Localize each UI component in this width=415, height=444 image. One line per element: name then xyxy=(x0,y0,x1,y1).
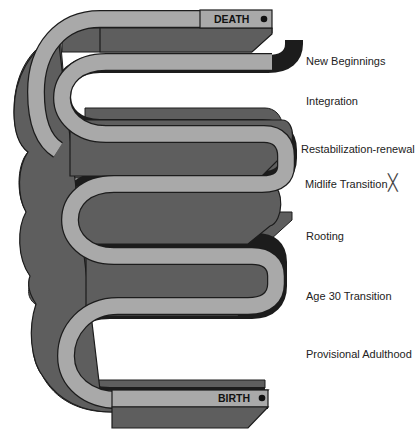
birth-band-shadow xyxy=(112,407,268,428)
stage-label-midlife-transition: Midlife Transition xyxy=(305,178,388,190)
top-strip-shadow xyxy=(100,28,272,52)
stage-label-integration: Integration xyxy=(306,95,358,107)
stage-label-provisional-adulthood: Provisional Adulthood xyxy=(306,348,412,360)
stage-label-restabilization-renewal: Restabilization-renewal xyxy=(301,143,415,155)
stage-label-new-beginnings: New Beginnings xyxy=(306,55,386,67)
stage-label-age-30-transition: Age 30 Transition xyxy=(306,290,392,302)
midlife-cross-marker-icon: ╳ xyxy=(388,175,398,191)
birth-dot-icon xyxy=(259,395,266,402)
stage-label-rooting: Rooting xyxy=(306,230,344,242)
death-label: DEATH xyxy=(214,13,249,25)
loop-b-shadow xyxy=(76,186,281,244)
death-dot-icon xyxy=(261,16,268,23)
birth-label: BIRTH xyxy=(218,392,250,404)
